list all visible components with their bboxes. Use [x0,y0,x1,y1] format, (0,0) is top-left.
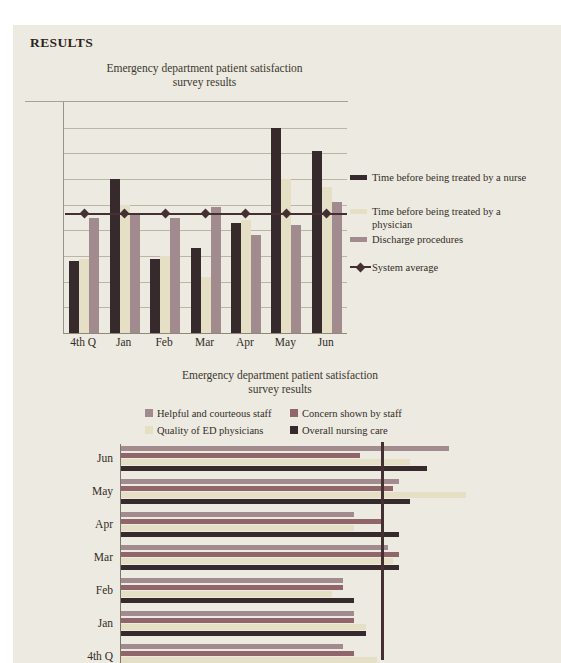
category-label: May [55,485,113,497]
legend-label: Helpful and courteous staff [157,408,271,419]
x-axis-label: 4th Q [63,336,103,348]
system-average-line [381,442,384,660]
bar [89,218,99,334]
legend-label: Time before being treated by a physician [372,206,542,231]
bar [291,225,301,333]
overall-series-swatch [290,426,298,434]
chart1-title-line1: Emergency department patient satisfactio… [63,61,346,75]
bar [312,151,322,333]
legend-label: System average [372,262,542,275]
gridline [64,205,347,206]
x-axis-label: May [265,336,305,348]
chart1-title: Emergency department patient satisfactio… [63,61,346,89]
quality-series-swatch [145,426,153,434]
x-axis-label: Jun [306,336,346,348]
category-label: Apr [55,518,113,530]
bar [69,261,79,333]
bar [251,235,261,333]
bar [121,479,399,484]
bar [121,598,354,603]
bar [332,202,342,333]
bar [121,611,354,616]
bar [121,519,382,524]
bar [121,453,360,458]
bar [121,618,354,623]
bar [121,499,410,504]
legend-item-quality: Quality of ED physicians [145,420,263,438]
bar [201,277,211,333]
category-label: Jan [55,617,113,629]
bar [211,207,221,333]
gridline [64,256,347,257]
helpful-series-swatch [145,409,153,417]
section-heading: RESULTS [30,35,93,51]
bar [121,651,354,656]
diamond-marker [201,209,211,219]
category-label: Mar [55,551,113,563]
bar [121,552,399,557]
bar [110,179,120,333]
legend-item-concern: Concern shown by staff [290,403,402,421]
bar [231,223,241,333]
bar [191,248,201,333]
category-label: 4th Q [55,650,113,662]
x-axis-label: Jan [103,336,143,348]
bar [121,591,332,596]
diamond-marker [241,209,251,219]
bar [121,532,399,537]
chart1-title-line2: survey results [63,75,346,89]
bar [79,259,89,333]
chart2-title-line1: Emergency department patient satisfactio… [120,368,440,382]
bar [150,259,160,333]
gridline [64,153,347,154]
physician-series-swatch [350,209,367,214]
bar [271,128,281,333]
nurse-series-swatch [350,175,367,180]
chart2-title: Emergency department patient satisfactio… [120,368,440,396]
chart2-title-line2: survey results [120,382,440,396]
system-average-line-swatch [350,266,371,268]
chart1-plot-area [63,102,347,334]
legend-label: Concern shown by staff [302,408,402,419]
gridline [64,230,347,231]
bar [281,179,291,333]
bar [121,545,388,550]
x-axis-label: Apr [225,336,265,348]
x-axis-label: Feb [144,336,184,348]
bar [121,644,343,649]
category-label: Jun [55,452,113,464]
diamond-marker [160,209,170,219]
bar [121,624,366,629]
bar [121,631,366,636]
bar [130,215,140,333]
bar [121,492,466,497]
bar [121,558,393,563]
legend-item-overall: Overall nursing care [290,420,388,438]
bar [121,459,410,464]
gridline [64,179,347,180]
legend-item-helpful: Helpful and courteous staff [145,403,271,421]
bar [160,256,170,333]
concern-series-swatch [290,409,298,417]
legend-label: Overall nursing care [302,425,388,436]
category-label: Feb [55,584,113,596]
bar [241,220,251,333]
bar [121,565,399,570]
legend-label: Quality of ED physicians [157,425,263,436]
bar [120,205,130,333]
legend-label: Discharge procedures [372,234,542,247]
gridline [64,128,347,129]
discharge-series-swatch [350,237,367,242]
legend-label: Time before being treated by a nurse [372,172,542,185]
x-axis-label: Mar [184,336,224,348]
bar [121,585,343,590]
bar [121,578,343,583]
chart2-plot-area [120,444,551,663]
bar [121,512,354,517]
bar [121,486,393,491]
bar [121,525,354,530]
bar [121,446,449,451]
bar [170,218,180,334]
diamond-marker [79,209,89,219]
bar [121,657,377,662]
